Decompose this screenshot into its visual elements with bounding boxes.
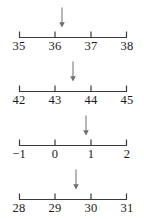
tick-label: −1 <box>12 146 26 162</box>
tick-label: 38 <box>121 38 134 54</box>
number-line: 42434445 <box>0 58 144 112</box>
number-line: 35363738 <box>0 4 144 58</box>
arrow-layer <box>0 112 144 138</box>
tick-label: 1 <box>88 146 94 162</box>
tick-labels: 42434445 <box>0 92 144 110</box>
tick-labels: −1012 <box>0 146 144 164</box>
arrow-layer <box>0 4 144 30</box>
tick-label: 43 <box>49 92 62 108</box>
down-arrow-icon <box>59 7 66 28</box>
down-arrow-icon <box>70 61 77 82</box>
arrow-layer <box>0 166 144 192</box>
tick-label: 42 <box>13 92 26 108</box>
tick-labels: 28293031 <box>0 200 144 218</box>
tick-label: 29 <box>49 200 62 216</box>
tick-label: 36 <box>49 38 62 54</box>
tick-label: 31 <box>121 200 134 216</box>
tick-label: 45 <box>121 92 134 108</box>
tick-label: 30 <box>85 200 98 216</box>
down-arrow-icon <box>83 115 90 136</box>
tick-label: 0 <box>52 146 58 162</box>
arrow-layer <box>0 58 144 84</box>
number-line: −1012 <box>0 112 144 166</box>
tick-label: 44 <box>85 92 98 108</box>
tick-label: 35 <box>13 38 26 54</box>
tick-label: 28 <box>13 200 26 216</box>
tick-label: 2 <box>124 146 130 162</box>
number-line: 28293031 <box>0 166 144 219</box>
tick-label: 37 <box>85 38 98 54</box>
tick-labels: 35363738 <box>0 38 144 56</box>
down-arrow-icon <box>73 169 80 190</box>
number-line-figure: 3536373842434445−101228293031 <box>0 0 144 219</box>
